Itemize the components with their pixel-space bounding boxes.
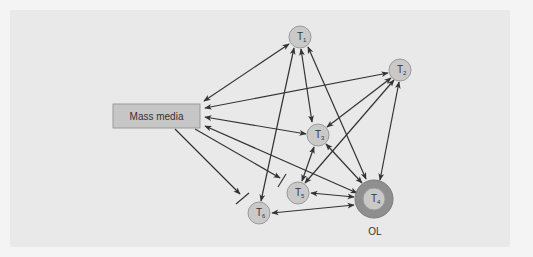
node-t6: T6: [248, 202, 270, 224]
edge-t3-t4: [326, 144, 362, 183]
network-diagram: Mass media T1 T2 T3 T4 OL T5 T6: [0, 0, 533, 257]
edge-t1-t6: [261, 48, 294, 201]
opinion-leader-label: OL: [368, 226, 382, 237]
node-t1: T1: [289, 26, 311, 48]
node-t4-opinion-leader: T4 OL: [355, 180, 393, 237]
edge-media-t1: [204, 44, 289, 101]
edge-t2-t4: [380, 82, 399, 180]
edge-media-t3: [205, 117, 306, 134]
block-mark-t6: [236, 193, 249, 204]
mass-media-node: Mass media: [113, 104, 200, 128]
edge-t3-t5: [302, 147, 314, 181]
edge-t1-t3: [301, 49, 312, 122]
edge-t4-t5: [311, 193, 354, 197]
edge-t4-t6: [272, 205, 354, 213]
mass-media-label: Mass media: [130, 111, 184, 122]
block-mark-t5: [278, 174, 286, 187]
edge-t1-t4: [308, 47, 366, 179]
node-t3: T3: [307, 124, 329, 146]
edge-media-t2: [205, 73, 388, 108]
node-t5: T5: [287, 182, 309, 204]
node-t2: T2: [389, 59, 411, 81]
edge-media-t6-blocked: [175, 129, 240, 194]
